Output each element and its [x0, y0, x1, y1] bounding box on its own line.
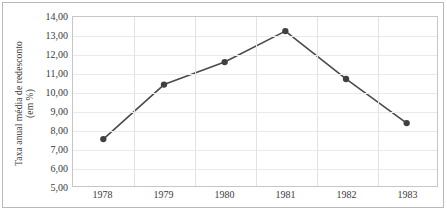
vertical-gridline: [195, 17, 196, 186]
vertical-gridline: [378, 17, 379, 186]
y-axis-tick-label: 7,00: [26, 144, 68, 155]
x-axis-tick-label: 1980: [215, 189, 235, 200]
y-axis-tick-label: 9,00: [26, 106, 68, 117]
y-axis-tick-label: 13,00: [26, 30, 68, 41]
vertical-gridline: [317, 17, 318, 186]
x-axis-tick-label: 1978: [93, 189, 113, 200]
y-axis-tick-label: 6,00: [26, 163, 68, 174]
horizontal-gridline: [73, 112, 437, 113]
y-axis-tick-label: 10,00: [26, 87, 68, 98]
data-point-marker: [100, 136, 106, 142]
x-axis-tick-label: 1979: [154, 189, 174, 200]
plot-area: [72, 16, 438, 187]
horizontal-gridline: [73, 74, 437, 75]
y-axis-tick-label: 8,00: [26, 125, 68, 136]
horizontal-gridline: [73, 150, 437, 151]
y-axis-tick-label: 11,00: [26, 68, 68, 79]
x-axis-tick-labels: 197819791980198119821983: [72, 189, 438, 207]
x-axis-tick-label: 1982: [337, 189, 357, 200]
horizontal-gridline: [73, 55, 437, 56]
vertical-gridline: [256, 17, 257, 186]
x-axis-tick-label: 1981: [276, 189, 296, 200]
y-axis-tick-label: 14,00: [26, 11, 68, 22]
series-polyline: [103, 31, 406, 139]
data-series-line: [73, 17, 437, 186]
horizontal-gridline: [73, 169, 437, 170]
data-point-marker: [282, 28, 288, 34]
vertical-gridline: [134, 17, 135, 186]
horizontal-gridline: [73, 131, 437, 132]
data-point-marker: [343, 76, 349, 82]
horizontal-gridline: [73, 36, 437, 37]
x-axis-tick-label: 1983: [398, 189, 418, 200]
data-point-marker: [161, 81, 167, 87]
y-axis-tick-labels: 5,006,007,008,009,0010,0011,0012,0013,00…: [26, 10, 68, 193]
chart-figure: Taxa anual média de redesconto (em %) 5,…: [0, 0, 447, 211]
data-point-marker: [403, 120, 409, 126]
horizontal-gridline: [73, 93, 437, 94]
y-axis-tick-label: 5,00: [26, 182, 68, 193]
y-axis-title-line-1: Taxa anual média de redesconto: [14, 41, 25, 166]
y-axis-tick-label: 12,00: [26, 49, 68, 60]
data-point-marker: [221, 59, 227, 65]
